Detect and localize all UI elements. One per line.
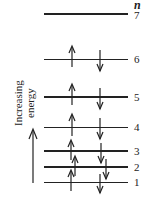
- spin-arrows: Increasing energy: [0, 0, 160, 198]
- spin-down-arrow-icon-6: [97, 50, 103, 71]
- spin-up-arrow-icon-6: [69, 46, 75, 67]
- spin-down-arrow-icon-4: [97, 118, 103, 139]
- increasing-energy-arrow-icon: [29, 129, 37, 183]
- spin-up-arrow-icon-5: [69, 84, 75, 105]
- spin-up-arrow-icon-3: [68, 140, 74, 160]
- axis-label-line1: Increasing: [12, 80, 24, 126]
- spin-down-arrow-icon-2: [103, 159, 109, 179]
- spin-down-arrow-icon-5: [97, 88, 103, 109]
- spin-down-arrow-icon-1: [97, 174, 103, 193]
- axis-label-line2: energy: [24, 88, 36, 118]
- spin-down-arrow-icon-3: [98, 143, 104, 163]
- spin-up-arrow-icon-1: [68, 170, 74, 191]
- spin-up-arrow-icon-4: [69, 114, 75, 136]
